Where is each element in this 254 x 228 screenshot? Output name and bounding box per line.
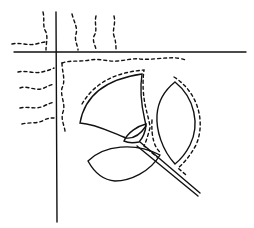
wavy-quilting-left-2 <box>20 84 54 89</box>
echo-stitch-leaf-inner <box>152 120 160 152</box>
wavy-quilting-horizontal <box>62 58 186 63</box>
bud-calyx <box>124 124 146 143</box>
wavy-quilting-top-1 <box>72 14 78 50</box>
wavy-quilting-top-2 <box>93 16 96 50</box>
vertical-rule <box>56 12 57 222</box>
wavy-quilting-top-left <box>12 42 46 45</box>
wavy-quilting-vertical <box>62 63 66 134</box>
echo-stitch-leaf <box>174 77 200 175</box>
wavy-quilting-top-corner <box>43 12 47 50</box>
wavy-quilting-left-1 <box>18 68 54 73</box>
flower-quilting-diagram <box>0 0 254 228</box>
diagram-canvas <box>0 0 254 228</box>
echo-stitch-bud <box>82 70 157 157</box>
upper-right-leaf <box>157 82 195 164</box>
wavy-quilting-left-3 <box>20 102 54 108</box>
wavy-quilting-top-3 <box>113 16 116 50</box>
wavy-quilting-left-4 <box>22 118 54 124</box>
lower-leaf <box>88 147 160 181</box>
